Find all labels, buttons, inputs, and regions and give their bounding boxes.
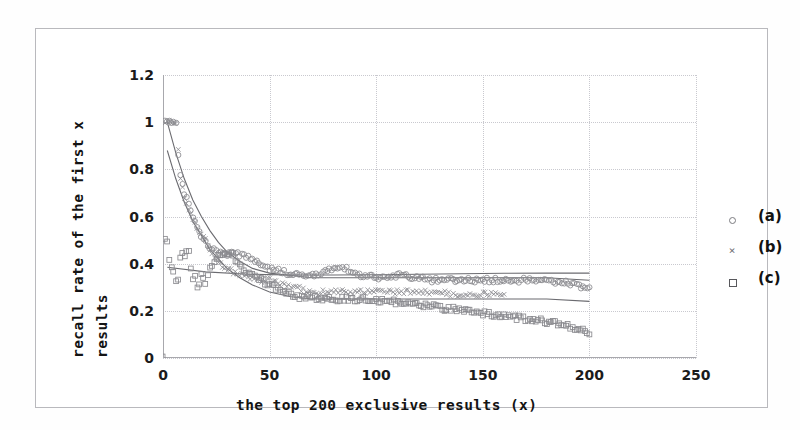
cross-marker (333, 287, 338, 292)
y-tick-label: 0.8 (129, 161, 154, 177)
y-tick-label: 0 (144, 350, 154, 366)
x-tick-label: 0 (158, 367, 168, 383)
x-tick-label: 50 (260, 367, 279, 383)
legend-row: (c) (726, 269, 798, 300)
figure-page: recall rate of the first x results the t… (0, 0, 800, 430)
square-marker (208, 265, 213, 270)
cross-marker (176, 147, 181, 152)
x-tick-label: 150 (468, 367, 497, 383)
cross-marker (419, 289, 424, 294)
x-tick-label: 200 (575, 367, 604, 383)
cross-marker (393, 292, 398, 297)
data-series-layer (163, 75, 696, 358)
circle-marker (729, 217, 736, 224)
y-axis-label-line-1: recall rate of the first x (70, 121, 86, 358)
legend-row: (a) (726, 207, 798, 238)
chart-legend: (a)×(b)(c) (726, 207, 798, 300)
legend-label: (a) (758, 207, 782, 225)
legend-row: ×(b) (726, 238, 798, 269)
cross-marker (178, 176, 183, 181)
square-marker (163, 354, 165, 358)
series-a (163, 118, 592, 291)
square-marker (167, 258, 172, 263)
y-tick-label: 1.2 (129, 67, 154, 83)
legend-label: (c) (758, 269, 781, 287)
gridline-vertical (696, 75, 697, 358)
series-c (163, 236, 592, 358)
gridline-horizontal (163, 358, 696, 359)
cross-marker (425, 290, 430, 295)
cross-marker (455, 294, 460, 299)
cross-marker (443, 289, 448, 294)
y-axis-label: recall rate of the first x results (70, 75, 130, 358)
plot-area: 00.20.40.60.811.2 050100150200250 (163, 75, 696, 358)
legend-label: (b) (758, 238, 782, 256)
figure-frame: recall rate of the first x results the t… (35, 28, 768, 408)
cross-marker (412, 290, 417, 295)
cross-marker (446, 290, 451, 295)
square-marker (195, 285, 200, 290)
square-marker (206, 273, 211, 278)
x-tick-label: 250 (681, 367, 710, 383)
y-tick-label: 1 (144, 114, 154, 130)
cross-marker (416, 291, 421, 296)
x-tick-label: 100 (362, 367, 391, 383)
y-axis-label-line-2: results (94, 294, 110, 358)
square-marker (729, 279, 737, 287)
x-axis-label: the top 200 exclusive results (x) (236, 397, 537, 413)
y-tick-label: 0.6 (129, 209, 154, 225)
y-tick-label: 0.4 (129, 256, 154, 272)
square-marker (197, 282, 202, 287)
square-marker (203, 282, 208, 287)
cross-marker (180, 185, 185, 190)
y-tick-label: 0.2 (129, 303, 154, 319)
cross-marker: × (726, 245, 738, 257)
